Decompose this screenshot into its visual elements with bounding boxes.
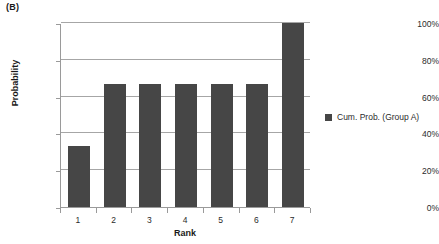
x-axis-tick-label: 7 — [290, 215, 295, 225]
x-axis-tick-label: 1 — [75, 215, 80, 225]
chart-figure: (B) Probability 0%20%40%60%80%100% 12345… — [0, 0, 439, 244]
bar[interactable] — [246, 84, 268, 207]
x-axis-title: Rank — [60, 228, 310, 238]
y-axis-tick-label: 40% — [387, 129, 439, 139]
x-axis-tick-mark — [60, 208, 61, 213]
bar-slot — [61, 24, 97, 207]
plot-area — [60, 24, 310, 208]
x-axis-tick-mark — [239, 208, 240, 213]
bar-slot — [204, 24, 240, 207]
legend-swatch-icon — [325, 114, 332, 121]
bar[interactable] — [68, 146, 90, 207]
bar[interactable] — [175, 84, 197, 207]
x-axis-tick-label: 2 — [111, 215, 116, 225]
x-axis-tick-mark — [203, 208, 204, 213]
x-axis-tick-mark — [167, 208, 168, 213]
y-axis-tick-label: 20% — [387, 166, 439, 176]
x-axis-tick-mark — [274, 208, 275, 213]
bar-slot — [275, 24, 311, 207]
bar[interactable] — [211, 84, 233, 207]
y-axis-title: Probability — [10, 38, 20, 128]
y-axis-tick-label: 100% — [387, 19, 439, 29]
legend-label: Cum. Prob. (Group A) — [337, 112, 419, 122]
bar[interactable] — [282, 23, 304, 207]
x-axis-tick-label: 5 — [218, 215, 223, 225]
x-axis-tick-label: 3 — [147, 215, 152, 225]
bar-slot — [168, 24, 204, 207]
y-axis-tick-label: 80% — [387, 56, 439, 66]
x-axis-tick-label: 4 — [183, 215, 188, 225]
bar-slot — [132, 24, 168, 207]
legend: Cum. Prob. (Group A) — [325, 112, 419, 122]
bar[interactable] — [139, 84, 161, 207]
y-axis-tick-label: 60% — [387, 93, 439, 103]
bar[interactable] — [104, 84, 126, 207]
x-axis-tick-mark — [96, 208, 97, 213]
x-axis-tick-label: 6 — [254, 215, 259, 225]
x-axis-tick-mark — [131, 208, 132, 213]
gridline — [61, 22, 310, 23]
x-axis-tick-mark — [310, 208, 311, 213]
bar-slot — [97, 24, 133, 207]
panel-label: (B) — [6, 2, 19, 12]
y-axis-tick-label: 0% — [387, 203, 439, 213]
bar-slot — [240, 24, 276, 207]
